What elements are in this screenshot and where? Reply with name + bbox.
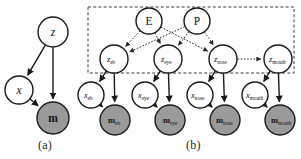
node-x: x xyxy=(5,76,33,104)
edge-P-to-z_eye xyxy=(178,32,188,46)
node-m_mouth: mmouth xyxy=(265,105,295,135)
graphical-model-diagram: zxm EPzebzeyeznosezmouthxebxeyexnosexmou… xyxy=(0,0,301,159)
edge-x-to-m xyxy=(30,99,38,106)
edge-x_eb-to-m_eb xyxy=(100,105,102,107)
node-label: E xyxy=(145,15,152,27)
node-label: m xyxy=(48,112,58,124)
node-P: P xyxy=(184,8,210,34)
node-m: m xyxy=(37,102,69,134)
node-x_eye: xeye xyxy=(132,82,158,108)
edge-x_eye-to-m_eye xyxy=(155,105,158,108)
edge-z_mouth-to-m_mouth xyxy=(278,73,279,101)
node-z_eye: zeye xyxy=(154,45,182,73)
panel-b-nodes: EPzebzeyeznosezmouthxebxeyexnosexmouthme… xyxy=(78,8,295,135)
panel-a-nodes: zxm xyxy=(5,17,69,134)
node-label: P xyxy=(194,15,200,27)
node-E: E xyxy=(136,8,162,34)
node-z: z xyxy=(38,17,68,47)
node-x_nose: xnose xyxy=(187,82,213,108)
edge-E-to-z_eb xyxy=(126,31,140,46)
edge-z_eye-to-m_eye xyxy=(168,73,169,101)
node-m_nose: mnose xyxy=(210,105,240,135)
node-z_nose: znose xyxy=(209,45,237,73)
edge-x_mouth-to-m_mouth xyxy=(265,105,268,108)
edge-z_nose-to-m_nose xyxy=(223,73,224,101)
node-x_eb: xeb xyxy=(78,82,104,108)
caption-a: (a) xyxy=(38,138,52,153)
node-m_eb: meb xyxy=(100,105,130,135)
node-x_mouth: xmouth xyxy=(242,82,268,108)
node-label: z xyxy=(50,26,56,38)
edge-z-to-x xyxy=(28,45,45,75)
edge-E-to-z_eye xyxy=(155,33,160,44)
node-label: x xyxy=(15,84,22,96)
edge-x_nose-to-m_nose xyxy=(210,105,213,108)
caption-b: (b) xyxy=(186,138,201,153)
node-m_eye: meye xyxy=(155,105,185,135)
node-z_eb: zeb xyxy=(100,45,128,73)
node-z_mouth: zmouth xyxy=(264,45,292,73)
edge-P-to-z_nose xyxy=(205,32,214,45)
figure-container: zxm EPzebzeyeznosezmouthxebxeyexnosexmou… xyxy=(0,0,301,159)
